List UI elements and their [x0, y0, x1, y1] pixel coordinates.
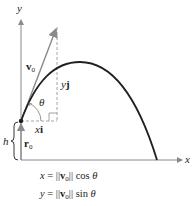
launch-point [19, 119, 23, 123]
right-angle-marker [49, 113, 57, 121]
velocity-label: v0 [26, 61, 35, 74]
vertical-component-label: yj [61, 79, 70, 90]
trajectory-curve [21, 62, 157, 160]
position-label: r0 [24, 138, 32, 151]
y-axis-label: y [17, 3, 22, 14]
height-brace [11, 122, 18, 160]
angle-label: θ [39, 97, 44, 108]
height-label: h [3, 136, 9, 147]
equation-y: y = ||v0|| sin θ [40, 188, 96, 201]
equation-x: x = ||v0|| cos θ [40, 170, 97, 183]
x-axis-label: x [185, 154, 190, 165]
horizontal-component-label: xi [35, 124, 43, 135]
